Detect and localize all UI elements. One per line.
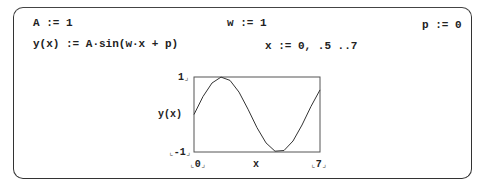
x-max-label: ⌞7⌟	[311, 159, 327, 170]
y-axis-label: y(x)	[158, 109, 182, 120]
plot-box	[194, 77, 320, 152]
sine-curve	[194, 77, 320, 151]
plot-canvas	[0, 0, 490, 187]
y-max-label: 1⌟	[178, 72, 189, 83]
x-axis-label: x	[253, 159, 259, 170]
y-min-label: ⌞-1⌟	[169, 147, 191, 158]
x-min-label: ⌞0⌟	[190, 159, 206, 170]
